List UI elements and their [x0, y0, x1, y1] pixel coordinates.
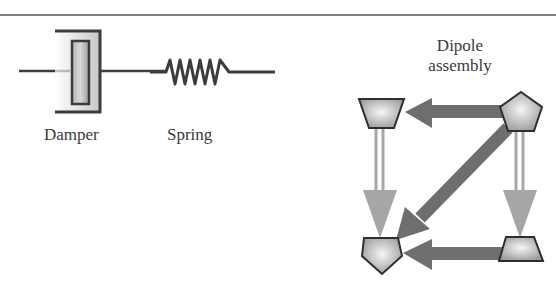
- node-top-right-pentagon: [500, 92, 542, 131]
- dipole-label-line2: assembly: [415, 56, 505, 76]
- spring-label: Spring: [167, 125, 212, 145]
- damper-label: Damper: [44, 125, 99, 145]
- dipole-label-line1: Dipole: [425, 36, 495, 56]
- arrow-down-left-icon: [363, 128, 397, 238]
- node-bottom-left-pentagon: [362, 238, 402, 274]
- node-bottom-right-trapezoid: [499, 237, 543, 261]
- spring-icon: [150, 60, 275, 84]
- arrow-diagonal-icon: [396, 128, 508, 240]
- arrow-left-bottom-icon: [403, 239, 503, 270]
- dipole-assembly: [359, 92, 543, 274]
- damper-icon: [19, 31, 165, 112]
- arrow-down-right-icon: [503, 128, 537, 238]
- node-top-left-trapezoid: [359, 99, 404, 128]
- arrow-left-top-icon: [405, 98, 503, 128]
